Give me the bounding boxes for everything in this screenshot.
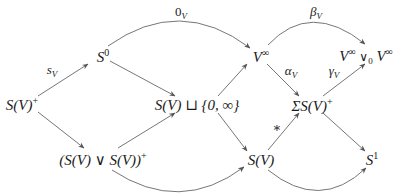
node-sv-plus-sup: + bbox=[33, 95, 39, 106]
node-sv-plus-base: S(V) bbox=[6, 97, 33, 113]
node-s0-sup: 0 bbox=[104, 47, 109, 58]
label-beta-v: βV bbox=[310, 5, 322, 21]
node-s1: S1 bbox=[366, 151, 379, 168]
node-v-inf-wedge-left: V bbox=[339, 48, 348, 64]
node-sv-disjoint: S(V) ⊔ {0, ∞} bbox=[155, 98, 239, 113]
node-v-inf-wedge: V∞ ∨0 V∞ bbox=[339, 47, 392, 66]
node-s1-base: S bbox=[366, 152, 374, 168]
node-sv: S(V) bbox=[248, 153, 275, 168]
label-beta-v-sub: V bbox=[316, 11, 322, 21]
label-alpha-v: αV bbox=[285, 64, 297, 80]
node-v-inf-wedge-op-sub: 0 bbox=[368, 56, 373, 66]
arrow-disjoint-to-vinf bbox=[218, 64, 247, 96]
label-s-v-sub: V bbox=[52, 69, 58, 79]
label-gamma-v: γV bbox=[329, 64, 340, 80]
arrow-s0-to-vinf bbox=[108, 21, 250, 48]
node-s0-base: S bbox=[97, 49, 105, 65]
node-sv-plus: S(V)+ bbox=[6, 96, 38, 113]
commutative-diagram: S(V)+ S0 S(V) ⊔ {0, ∞} (S(V) ∨ S(V))+ V∞… bbox=[0, 0, 408, 194]
label-zero-v-sub: V bbox=[182, 11, 188, 21]
node-v-inf-wedge-left-sup: ∞ bbox=[348, 46, 355, 57]
arrow-vinf-to-vinf-wedge bbox=[268, 22, 365, 45]
node-v-inf-wedge-op: ∨ bbox=[359, 50, 368, 64]
node-wedge-plus: (S(V) ∨ S(V))+ bbox=[59, 151, 146, 168]
arrow-sv-plus-to-s0 bbox=[38, 64, 88, 96]
node-v-inf: V∞ bbox=[253, 48, 269, 65]
label-s-v: sV bbox=[47, 63, 58, 79]
label-star: ∗ bbox=[273, 121, 282, 134]
node-sigma-sv-plus-sup: + bbox=[327, 96, 333, 107]
arrow-sv-to-s1 bbox=[268, 168, 366, 191]
arrow-sigma-to-s1 bbox=[323, 113, 365, 151]
node-s1-sup: 1 bbox=[373, 150, 378, 161]
arrow-disjoint-to-sv bbox=[218, 113, 247, 151]
node-v-inf-sup: ∞ bbox=[262, 47, 269, 58]
label-zero-v: 0V bbox=[175, 5, 187, 21]
node-sigma-sv-plus-base: ΣS(V) bbox=[291, 98, 327, 114]
arrow-s0-to-disjoint bbox=[110, 61, 175, 96]
node-v-inf-wedge-right: V bbox=[376, 48, 385, 64]
arrow-wedge-to-sv bbox=[112, 167, 244, 192]
arrow-sv-plus-to-wedge bbox=[38, 112, 84, 148]
arrow-wedge-to-disjoint bbox=[118, 113, 175, 148]
label-alpha-v-sub: V bbox=[292, 70, 298, 80]
label-gamma-v-sub: V bbox=[334, 70, 340, 80]
node-v-inf-wedge-right-sup: ∞ bbox=[386, 46, 393, 57]
node-wedge-plus-base: (S(V) ∨ S(V)) bbox=[59, 152, 141, 168]
node-wedge-plus-sup: + bbox=[141, 150, 147, 161]
node-sigma-sv-plus: ΣS(V)+ bbox=[291, 97, 332, 114]
node-v-inf-base: V bbox=[253, 49, 262, 65]
label-alpha-v-base: α bbox=[285, 63, 292, 78]
node-s0: S0 bbox=[97, 48, 110, 65]
